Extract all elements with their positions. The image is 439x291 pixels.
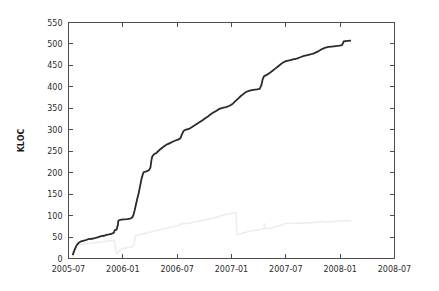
x-tick-label: 2007-07 bbox=[269, 265, 302, 274]
x-tick-label: 2008-07 bbox=[378, 265, 411, 274]
x-tick-label: 2006-07 bbox=[160, 265, 193, 274]
y-tick-label: 150 bbox=[47, 190, 62, 199]
y-tick-label: 200 bbox=[47, 169, 62, 178]
y-tick-label: 0 bbox=[57, 255, 62, 264]
y-tick-label: 250 bbox=[47, 147, 62, 156]
y-tick-label: 550 bbox=[47, 19, 62, 28]
x-tick-label: 2006-01 bbox=[106, 265, 139, 274]
y-axis-tick-labels: 050100150200250300350400450500550 bbox=[47, 19, 62, 264]
y-axis-title: KLOC bbox=[17, 129, 26, 153]
y-tick-label: 400 bbox=[47, 83, 62, 92]
x-tick-label: 2007-01 bbox=[215, 265, 248, 274]
y-tick-label: 500 bbox=[47, 40, 62, 49]
series-line-comment-blank-code bbox=[73, 213, 351, 257]
y-tick-label: 50 bbox=[52, 233, 62, 242]
x-tick-label: 2005-07 bbox=[52, 265, 85, 274]
data-series-group bbox=[73, 41, 351, 258]
y-tick-label: 100 bbox=[47, 212, 62, 221]
y-tick-label: 450 bbox=[47, 61, 62, 70]
y-tick-label: 350 bbox=[47, 104, 62, 113]
x-axis-tick-labels: 2005-072006-012006-072007-012007-072008-… bbox=[52, 265, 411, 274]
y-tick-label: 300 bbox=[47, 126, 62, 135]
chart-container: 050100150200250300350400450500550 2005-0… bbox=[0, 0, 439, 291]
kloc-line-chart: 050100150200250300350400450500550 2005-0… bbox=[0, 0, 439, 291]
x-tick-label: 2008-01 bbox=[323, 265, 356, 274]
